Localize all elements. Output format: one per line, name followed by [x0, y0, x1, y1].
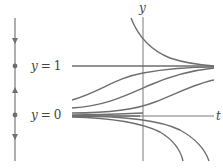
arrow-down-icon	[12, 38, 18, 44]
t-axis-label: t	[216, 109, 221, 123]
equilibrium-dot-y0	[13, 113, 18, 118]
phase-diagram: y=1 y=0 y t	[0, 0, 223, 168]
axes: y t	[72, 1, 221, 161]
y-axis-label: y	[138, 1, 146, 15]
arrow-down-icon	[12, 134, 18, 140]
label-y-equals-0: y=0	[30, 108, 61, 122]
phase-line	[12, 18, 18, 161]
curve-below-zero-2	[72, 116, 209, 161]
label-y-equals-1: y=1	[30, 59, 61, 73]
arrow-up-icon	[12, 87, 18, 93]
equilibrium-dot-y1	[13, 64, 18, 69]
curve-below-zero-1	[72, 117, 183, 161]
